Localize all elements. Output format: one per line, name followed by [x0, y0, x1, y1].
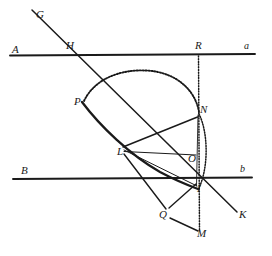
point-label-H: H — [66, 40, 74, 51]
segment-L-to-N — [123, 117, 198, 147]
line-label-b: b — [240, 164, 245, 174]
point-label-O: O — [188, 153, 196, 164]
point-label-G: G — [36, 9, 44, 20]
point-label-A: A — [12, 44, 19, 55]
point-label-P: P — [74, 96, 81, 107]
segment-N-to-I — [197, 115, 199, 186]
vertical-dotted-axis — [199, 56, 200, 231]
point-label-M: M — [197, 228, 206, 239]
horizontal-line-b — [13, 178, 252, 180]
point-label-Q: Q — [159, 209, 167, 220]
dotted-arc-P-to-N — [84, 70, 199, 112]
geometry-diagram: G A H R a P N L O B b I Q K M — [0, 0, 272, 256]
point-label-L: L — [117, 146, 123, 157]
point-label-I: I — [197, 183, 201, 194]
line-label-a: a — [244, 41, 249, 51]
point-label-R: R — [195, 40, 202, 51]
point-label-N: N — [200, 104, 207, 115]
point-label-K: K — [239, 209, 246, 220]
segment-Q-to-M — [170, 218, 198, 231]
horizontal-line-a — [10, 54, 255, 56]
segment-Q-to-I — [169, 184, 196, 208]
point-label-B: B — [21, 165, 28, 176]
diagram-canvas — [0, 0, 272, 256]
